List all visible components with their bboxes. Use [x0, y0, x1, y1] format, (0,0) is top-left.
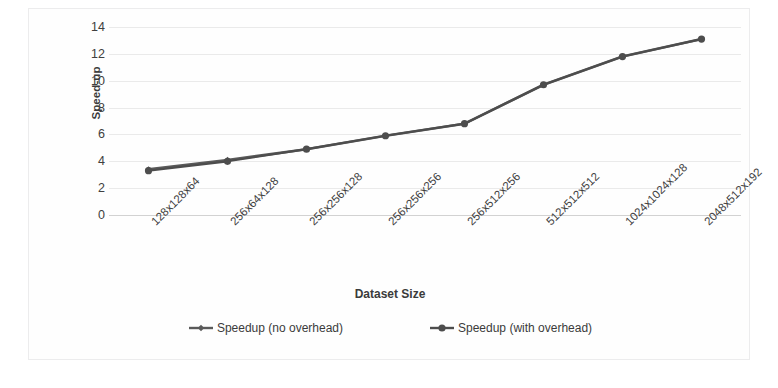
data-point-marker: [619, 53, 626, 60]
data-point-marker: [145, 167, 152, 174]
data-point-marker: [224, 158, 231, 165]
legend-entry[interactable]: Speedup (no overhead): [188, 321, 343, 335]
x-axis-title: Dataset Size: [29, 287, 751, 301]
data-point-marker: [382, 132, 389, 139]
legend-entry[interactable]: Speedup (with overhead): [429, 321, 592, 335]
legend-label: Speedup (no overhead): [217, 321, 343, 335]
y-tick-label: 12: [71, 48, 105, 61]
y-axis-tick-labels: 02468101214: [71, 27, 105, 215]
x-axis-tick-labels: 128x128x64256x64x128256x256x128256x256x2…: [109, 215, 741, 295]
legend-label: Speedup (with overhead): [458, 321, 592, 335]
legend-marker-icon: [188, 322, 214, 334]
data-point-marker: [461, 120, 468, 127]
y-tick-label: 10: [71, 74, 105, 87]
series-line: [149, 39, 702, 171]
legend-marker-icon: [429, 322, 455, 334]
data-point-marker: [698, 35, 705, 42]
y-tick-label: 0: [71, 209, 105, 222]
data-point-marker: [540, 81, 547, 88]
y-tick-label: 2: [71, 182, 105, 195]
data-point-marker: [303, 146, 310, 153]
y-tick-label: 4: [71, 155, 105, 168]
y-tick-label: 14: [71, 21, 105, 34]
y-tick-label: 6: [71, 128, 105, 141]
y-tick-label: 8: [71, 101, 105, 114]
chart-legend: Speedup (no overhead)Speedup (with overh…: [29, 321, 751, 335]
speedup-line-chart: Speed-up 02468101214 128x128x64256x64x12…: [28, 8, 750, 360]
